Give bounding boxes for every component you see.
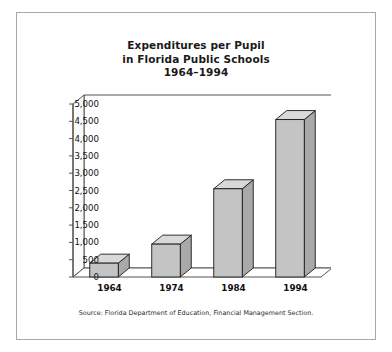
y-axis-tick-label: 0 bbox=[53, 272, 99, 282]
chart-title-line-2: in Florida Public Schools bbox=[17, 53, 375, 67]
bar-1994 bbox=[276, 111, 316, 277]
chart-title: Expenditures per Pupil in Florida Public… bbox=[17, 39, 375, 80]
y-axis-tick-label: 2,000 bbox=[53, 203, 99, 213]
y-axis-tick-label: 3,000 bbox=[53, 168, 99, 178]
y-axis-labels: 05001,0001,5002,0002,5003,0003,5004,0004… bbox=[53, 93, 99, 293]
x-axis-tick-label: 1984 bbox=[221, 283, 245, 293]
chart-canvas bbox=[59, 93, 331, 293]
chart-figure: Expenditures per Pupil in Florida Public… bbox=[16, 12, 376, 340]
y-axis-tick-label: 4,500 bbox=[53, 116, 99, 126]
bar-side-face bbox=[304, 111, 315, 277]
chart-source-note: Source: Florida Department of Education,… bbox=[17, 309, 375, 317]
chart-title-line-1: Expenditures per Pupil bbox=[17, 39, 375, 53]
bar-front-face bbox=[152, 244, 181, 277]
x-axis-tick-label: 1994 bbox=[283, 283, 307, 293]
y-axis-tick-label: 3,500 bbox=[53, 151, 99, 161]
bar-1984 bbox=[214, 180, 254, 277]
chart-title-line-3: 1964–1994 bbox=[17, 66, 375, 80]
bar-front-face bbox=[214, 189, 243, 277]
x-axis-labels: 1964197419841994 bbox=[59, 283, 331, 297]
y-axis-tick-label: 5,000 bbox=[53, 99, 99, 109]
bar-1974 bbox=[152, 235, 192, 277]
x-axis-tick-label: 1964 bbox=[97, 283, 121, 293]
y-axis-tick-label: 1,500 bbox=[53, 220, 99, 230]
y-axis-tick-label: 2,500 bbox=[53, 186, 99, 196]
y-axis-tick-label: 500 bbox=[53, 255, 99, 265]
y-axis-tick-label: 1,000 bbox=[53, 237, 99, 247]
chart-plot-area: 05001,0001,5002,0002,5003,0003,5004,0004… bbox=[59, 93, 331, 293]
bar-side-face bbox=[242, 180, 253, 277]
bar-front-face bbox=[276, 120, 305, 277]
y-axis-tick-label: 4,000 bbox=[53, 134, 99, 144]
x-axis-tick-label: 1974 bbox=[159, 283, 183, 293]
